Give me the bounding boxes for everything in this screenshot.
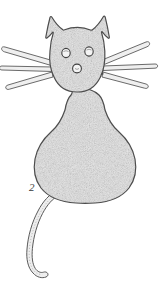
whiskers-right-group [102, 42, 158, 89]
left-whisker-upper [2, 47, 54, 66]
head-group [46, 16, 110, 92]
left-whisker-lower [6, 72, 53, 89]
right-whisker-lower [102, 72, 148, 88]
figure-number-label: 2 [29, 182, 35, 193]
left-whisker-middle [0, 66, 53, 72]
right-eye [85, 47, 93, 56]
figure-container: 2 [0, 0, 161, 289]
whiskers-left-group [0, 47, 54, 90]
organism-diagram [0, 0, 161, 289]
right-whisker-upper [102, 42, 150, 65]
nose [73, 64, 82, 73]
tail-group [27, 190, 61, 277]
left-eye [62, 48, 70, 57]
right-whisker-middle [103, 64, 158, 71]
body-group [34, 88, 136, 203]
